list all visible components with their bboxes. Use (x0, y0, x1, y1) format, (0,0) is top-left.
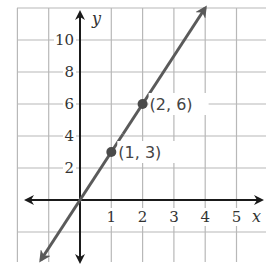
point-label: (2, 6) (150, 95, 193, 114)
point-label: (1, 3) (118, 143, 161, 162)
y-tick-label: 10 (55, 31, 74, 49)
y-tick-label: 4 (64, 127, 74, 145)
coordinate-plane: 24681012345 x y (1, 3)(2, 6) (0, 0, 266, 265)
x-tick-label: 2 (138, 208, 148, 226)
y-axis-label: y (91, 9, 102, 28)
x-tick-label: 1 (107, 208, 117, 226)
x-axis-label: x (252, 207, 261, 226)
y-tick-label: 8 (64, 63, 74, 81)
x-tick-label: 5 (232, 208, 242, 226)
x-tick-label: 4 (200, 208, 210, 226)
y-tick-label: 2 (64, 159, 74, 177)
y-tick-label: 6 (64, 95, 74, 113)
data-point (106, 147, 116, 157)
x-tick-label: 3 (169, 208, 179, 226)
data-point (138, 99, 148, 109)
